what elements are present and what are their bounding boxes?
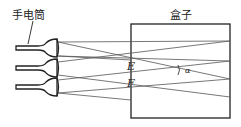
flashlights [16,39,59,96]
light-rays [58,41,230,100]
point-e-label: E [127,60,135,73]
flashlight-label: 手电筒 [12,6,45,22]
angle-label: α [185,66,190,75]
diagram: 手电筒 盒子 E F α [0,0,241,127]
point-f-label: F [127,77,135,90]
flashlight-3 [16,78,57,96]
label-pointer [28,21,33,44]
box [131,24,230,118]
box-label: 盒子 [170,6,192,22]
flashlight-1 [16,39,57,57]
flashlight-2 [16,59,57,77]
